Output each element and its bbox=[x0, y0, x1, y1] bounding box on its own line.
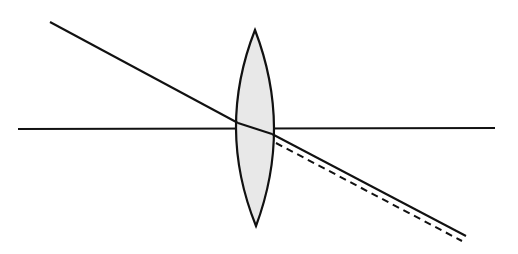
undeviated-path-dashed bbox=[276, 143, 462, 241]
incident-ray bbox=[50, 22, 238, 123]
refracted-ray bbox=[272, 134, 466, 236]
lens-diagram bbox=[0, 0, 518, 254]
